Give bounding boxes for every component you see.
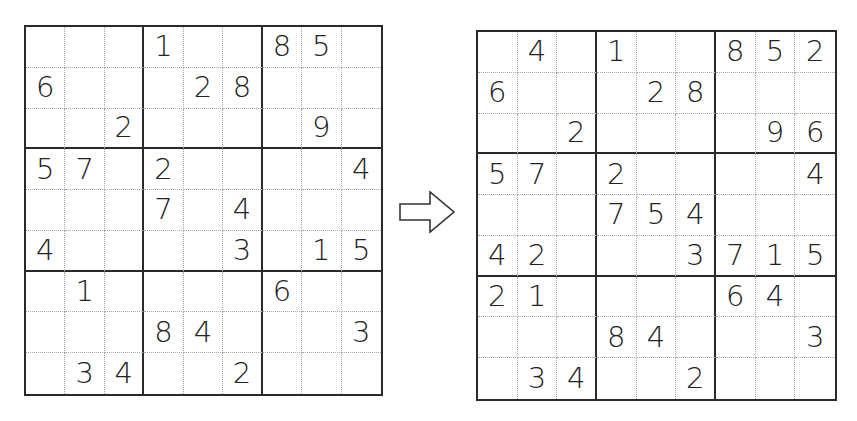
sudoku-cell: 7 [144, 190, 183, 231]
sudoku-cell: 5 [478, 154, 518, 195]
sudoku-cell: 1 [756, 236, 796, 277]
sudoku-cell [557, 195, 597, 236]
sudoku-cell [302, 68, 341, 109]
sudoku-cell [637, 236, 677, 277]
sudoku-cell [637, 277, 677, 318]
sudoku-cell: 6 [716, 277, 756, 318]
sudoku-cell [105, 231, 144, 272]
sudoku-cell: 4 [637, 317, 677, 358]
sudoku-cell [756, 358, 796, 399]
sudoku-cell: 4 [478, 236, 518, 277]
sudoku-cell [65, 190, 104, 231]
sudoku-cell [223, 149, 262, 190]
sudoku-cell: 5 [637, 195, 677, 236]
sudoku-cell: 3 [223, 231, 262, 272]
sudoku-cell [263, 231, 302, 272]
sudoku-cell: 1 [597, 32, 637, 73]
sudoku-cell: 7 [65, 149, 104, 190]
sudoku-cell: 1 [65, 272, 104, 313]
sudoku-cell [105, 27, 144, 68]
sudoku-cell [105, 312, 144, 353]
sudoku-cell: 4 [26, 231, 65, 272]
sudoku-cell [105, 68, 144, 109]
sudoku-cell [342, 353, 381, 394]
sudoku-cell: 2 [144, 149, 183, 190]
sudoku-cell: 5 [26, 149, 65, 190]
sudoku-cell [26, 109, 65, 150]
sudoku-cell: 6 [795, 114, 835, 155]
sudoku-cell: 7 [518, 154, 558, 195]
sudoku-cell [26, 27, 65, 68]
sudoku-cell: 3 [676, 236, 716, 277]
sudoku-cell [184, 231, 223, 272]
sudoku-cell [184, 149, 223, 190]
sudoku-cell [557, 73, 597, 114]
sudoku-cell [144, 109, 183, 150]
sudoku-cell [795, 73, 835, 114]
sudoku-cell: 3 [65, 353, 104, 394]
sudoku-cell [263, 149, 302, 190]
sudoku-cell: 3 [518, 358, 558, 399]
sudoku-cell: 5 [756, 32, 796, 73]
sudoku-cell [223, 312, 262, 353]
sudoku-cell [676, 317, 716, 358]
sudoku-cell: 2 [105, 109, 144, 150]
sudoku-cell [144, 353, 183, 394]
sudoku-cell [756, 317, 796, 358]
sudoku-cell [26, 353, 65, 394]
sudoku-cell [637, 114, 677, 155]
sudoku-cell [65, 312, 104, 353]
sudoku-cell [263, 109, 302, 150]
sudoku-cell: 4 [795, 154, 835, 195]
sudoku-cell: 9 [756, 114, 796, 155]
sudoku-cell [302, 149, 341, 190]
sudoku-cell: 4 [223, 190, 262, 231]
sudoku-cell: 8 [144, 312, 183, 353]
sudoku-cell [105, 149, 144, 190]
sudoku-cell: 6 [263, 272, 302, 313]
sudoku-cell [795, 358, 835, 399]
sudoku-cell [518, 73, 558, 114]
sudoku-cell: 4 [557, 358, 597, 399]
sudoku-cell [716, 317, 756, 358]
sudoku-cell [716, 154, 756, 195]
sudoku-cell: 4 [105, 353, 144, 394]
sudoku-cell [557, 236, 597, 277]
sudoku-cell [676, 114, 716, 155]
sudoku-cell [342, 190, 381, 231]
sudoku-cell [637, 358, 677, 399]
sudoku-cell [26, 272, 65, 313]
sudoku-cell [756, 154, 796, 195]
sudoku-cell [184, 272, 223, 313]
sudoku-cell: 2 [478, 277, 518, 318]
sudoku-cell: 3 [342, 312, 381, 353]
sudoku-cell [557, 32, 597, 73]
sudoku-cell [105, 272, 144, 313]
sudoku-cell [184, 109, 223, 150]
sudoku-cell [518, 317, 558, 358]
sudoku-cell [557, 277, 597, 318]
sudoku-cell [478, 358, 518, 399]
sudoku-cell [676, 277, 716, 318]
sudoku-cell [756, 195, 796, 236]
sudoku-cell [478, 32, 518, 73]
sudoku-cell [342, 68, 381, 109]
sudoku-cell [637, 154, 677, 195]
sudoku-cell: 2 [637, 73, 677, 114]
sudoku-cell: 2 [597, 154, 637, 195]
sudoku-cell [756, 73, 796, 114]
sudoku-cell: 8 [263, 27, 302, 68]
sudoku-cell [65, 68, 104, 109]
sudoku-cell: 9 [302, 109, 341, 150]
sudoku-cell [65, 231, 104, 272]
sudoku-cell: 1 [302, 231, 341, 272]
sudoku-cell [65, 27, 104, 68]
sudoku-cell: 8 [676, 73, 716, 114]
sudoku-cell [597, 277, 637, 318]
sudoku-cell: 6 [26, 68, 65, 109]
sudoku-cell [676, 154, 716, 195]
sudoku-cell [597, 236, 637, 277]
sudoku-cell: 2 [795, 32, 835, 73]
sudoku-cell: 1 [518, 277, 558, 318]
sudoku-cell: 2 [184, 68, 223, 109]
